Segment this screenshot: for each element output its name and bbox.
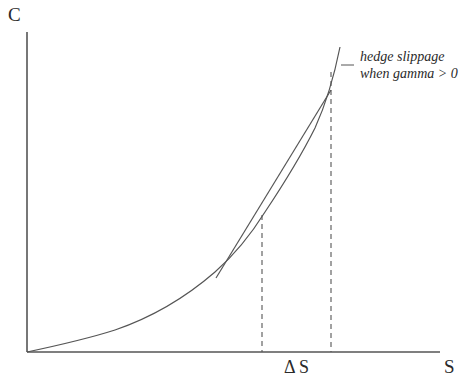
y-axis-label: C	[8, 4, 21, 26]
annotation-line-1: hedge slippage	[360, 48, 458, 65]
annotation-line-2: when gamma > 0	[360, 65, 458, 82]
hedge-slippage-annotation: hedge slippage when gamma > 0	[360, 48, 458, 82]
delta-s-label: Δ S	[284, 357, 309, 378]
delta-tangent-line	[216, 90, 331, 278]
option-value-curve	[27, 47, 340, 352]
x-axis-label: S	[444, 356, 455, 378]
